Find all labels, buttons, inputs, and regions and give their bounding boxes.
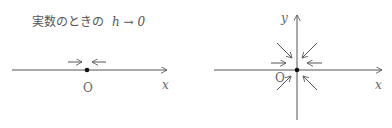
origin-label-left: O bbox=[83, 82, 93, 94]
complex-plane bbox=[214, 15, 382, 120]
real-number-line bbox=[12, 62, 167, 72]
caption-text: 実数のときの bbox=[32, 15, 104, 29]
y-axis-label-right: y bbox=[281, 12, 288, 24]
caption-math: h → 0 bbox=[112, 15, 145, 29]
x-axis-label-left: x bbox=[162, 79, 169, 91]
diagram-canvas: 実数のときのh → 0 O x O x y bbox=[0, 0, 392, 128]
origin-label-right: O bbox=[275, 72, 285, 84]
x-axis-label-right: x bbox=[375, 79, 382, 91]
caption: 実数のときのh → 0 bbox=[32, 12, 145, 29]
